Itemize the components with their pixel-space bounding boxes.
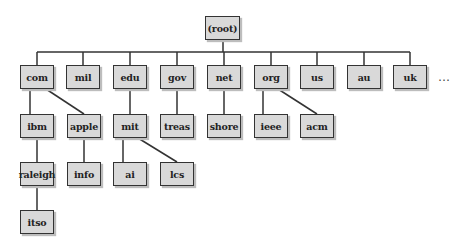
node-mil: mil <box>66 65 100 89</box>
node-com: com <box>20 65 54 89</box>
node-shore: shore <box>207 114 241 138</box>
node-apple: apple <box>67 114 101 138</box>
node-itso: itso <box>20 210 54 234</box>
more-indicator: … <box>438 70 450 84</box>
node-treas: treas <box>160 114 194 138</box>
node-ai: ai <box>113 162 147 186</box>
node-edu: edu <box>113 65 147 89</box>
node-us: us <box>300 65 334 89</box>
node-ibm: ibm <box>20 114 54 138</box>
node-ieee: ieee <box>254 114 288 138</box>
node-net: net <box>207 65 241 89</box>
node-uk: uk <box>393 65 427 89</box>
node-org: org <box>254 65 288 89</box>
node-au: au <box>347 65 381 89</box>
node-raleigh: raleigh <box>20 162 54 186</box>
node-info: info <box>67 162 101 186</box>
node-lcs: lcs <box>160 162 194 186</box>
node-mit: mit <box>113 114 147 138</box>
node-root: (root) <box>205 16 240 40</box>
node-gov: gov <box>160 65 194 89</box>
node-acm: acm <box>300 114 334 138</box>
